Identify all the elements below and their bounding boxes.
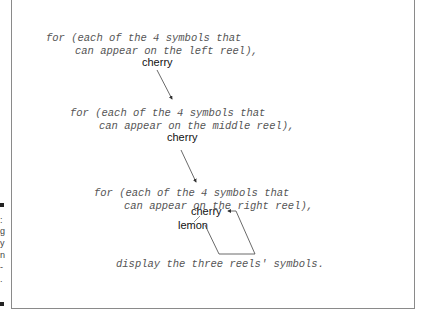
arrow-outer-to-middle xyxy=(157,70,172,99)
arrow-middle-to-inner xyxy=(181,150,196,182)
arrow-inner-loop-cycle xyxy=(205,211,255,254)
arrows-overlay xyxy=(0,0,425,313)
connector-lemon-cherry xyxy=(194,216,200,222)
